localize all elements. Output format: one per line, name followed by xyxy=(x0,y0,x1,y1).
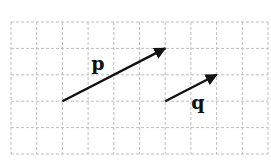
vector-p-label: p xyxy=(91,52,104,74)
grid xyxy=(11,22,268,154)
vector-q-label: q xyxy=(191,91,204,113)
vector-grid-diagram: pq xyxy=(0,0,271,160)
vector-q: q xyxy=(165,75,216,113)
